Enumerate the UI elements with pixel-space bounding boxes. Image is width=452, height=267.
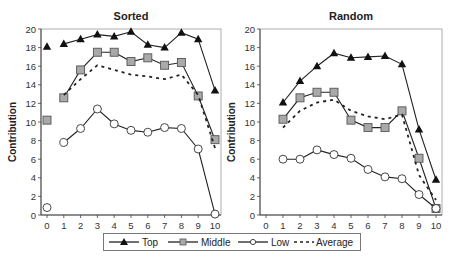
x-tick-label: 1 [61,220,66,231]
y-tick-label: 16 [25,61,36,72]
circle-marker-icon [415,191,423,199]
square-marker-icon [398,107,406,115]
x-tick-label: 9 [416,220,421,231]
chart-title: Sorted [114,10,149,22]
triangle-marker-icon [93,30,101,38]
y-tick-label: 6 [250,154,255,165]
circle-marker-icon [77,125,85,133]
square-marker-icon [313,88,321,96]
square-marker-icon [364,124,372,132]
circle-marker-icon [347,154,355,162]
y-tick-label: 2 [31,191,36,202]
y-tick-label: 18 [244,42,255,53]
triangle-marker-icon [127,27,135,35]
series-average [64,65,215,148]
x-tick-label: 0 [263,220,268,231]
x-tick-label: 7 [162,220,167,231]
circle-marker-icon [194,145,202,153]
legend-label-top: Top [142,237,159,248]
x-tick-label: 6 [365,220,370,231]
y-tick-label: 0 [250,210,255,221]
legend-label-average: Average [316,237,354,248]
square-marker-icon [127,58,135,66]
circle-marker-icon [60,138,68,146]
square-marker-icon [43,116,51,124]
circle-marker-icon [296,155,304,163]
x-tick-label: 3 [314,220,319,231]
square-marker-icon [330,88,338,96]
square-marker-icon [296,94,304,102]
x-tick-label: 4 [331,220,336,231]
legend-canvas: Top Middle Low Average [104,234,360,250]
y-tick-label: 4 [250,172,255,183]
circle-marker-icon [43,204,51,212]
triangle-marker-icon [432,175,440,183]
circle-marker-icon [330,151,338,159]
y-tick-label: 6 [31,154,36,165]
figure: Sorted02468101214161820012345678910Perio… [0,0,452,267]
circle-marker-icon [127,126,135,134]
legend: Top Middle Low Average [103,233,361,251]
triangle-marker-icon [296,77,304,85]
series-low [43,105,219,218]
y-tick-label: 12 [25,98,36,109]
legend-label-low: Low [271,237,290,248]
circle-marker-icon [313,146,321,154]
square-marker-icon [144,54,152,62]
legend-item-average: Average [294,237,354,248]
circle-marker-icon [161,124,169,132]
series-average [283,100,436,200]
triangle-marker-icon [313,62,321,69]
y-axis-label: Contribution [226,102,237,162]
y-tick-label: 10 [244,117,255,128]
circle-marker-icon [279,155,287,163]
y-tick-label: 18 [25,42,36,53]
square-marker-icon [194,92,202,100]
x-tick-label: 3 [95,220,100,231]
square-marker-icon [60,94,68,102]
legend-item-top: Top [109,237,159,248]
x-tick-label: 9 [196,220,201,231]
x-tick-label: 8 [179,220,184,231]
circle-marker-icon [177,125,185,133]
square-marker-icon [110,48,118,56]
circle-marker-icon [398,175,406,183]
x-tick-label: 8 [399,220,404,231]
triangle-marker-icon [415,125,423,133]
x-tick-label: 7 [382,220,387,231]
circle-marker-icon [432,204,440,212]
triangle-marker-icon [43,42,51,50]
x-tick-label: 10 [431,220,442,231]
y-tick-label: 14 [244,79,255,90]
triangle-marker-icon [330,49,338,57]
y-tick-label: 4 [31,172,36,183]
y-tick-label: 10 [25,117,36,128]
x-tick-label: 2 [297,220,302,231]
plot-frame [41,29,221,215]
legend-item-middle: Middle [168,237,231,248]
x-tick-label: 5 [128,220,133,231]
triangle-marker-icon [381,51,389,59]
square-marker-icon [177,58,185,66]
legend-label-middle: Middle [201,237,231,248]
triangle-marker-icon [211,86,219,94]
circle-marker-icon [364,165,372,173]
x-tick-label: 5 [348,220,353,231]
chart-panel-random: Random02468101214161820012345678910Perio… [226,10,442,232]
chart-panel-sorted: Sorted02468101214161820012345678910Perio… [7,10,221,232]
square-marker-icon [381,124,389,132]
square-marker-icon [161,61,169,69]
circle-marker-icon [381,173,389,181]
triangle-marker-icon [364,52,372,60]
chart-title: Random [329,10,373,22]
circle-marker-icon [144,128,152,136]
y-tick-label: 0 [31,210,36,221]
square-marker-icon [77,66,85,74]
triangle-marker-icon [398,60,406,67]
square-marker-icon [347,116,355,124]
square-marker-icon [180,239,186,245]
circle-marker-icon [250,239,255,244]
y-tick-label: 8 [31,135,36,146]
triangle-marker-icon [144,40,152,48]
y-tick-label: 14 [25,79,36,90]
